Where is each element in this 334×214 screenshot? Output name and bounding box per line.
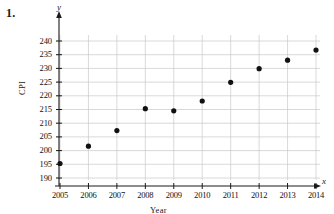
y-tick-label: 220 — [28, 90, 52, 100]
data-point — [257, 66, 262, 71]
axis-lines — [55, 11, 321, 189]
y-tick-label: 200 — [28, 145, 52, 155]
data-point — [171, 108, 176, 113]
data-point — [86, 144, 91, 149]
x-tick-label: 2005 — [45, 190, 75, 200]
data-point — [114, 128, 119, 133]
data-point — [57, 161, 62, 166]
data-points — [57, 47, 318, 166]
y-tick-label: 215 — [28, 104, 52, 114]
data-point — [285, 58, 290, 63]
y-tick-label: 230 — [28, 63, 52, 73]
y-axis-arrowhead — [56, 11, 62, 18]
figure-container: 1. y x CPI Year 190195200205210215220225… — [0, 0, 334, 214]
x-tick-label: 2010 — [187, 190, 217, 200]
x-tick-label: 2011 — [216, 190, 246, 200]
x-axis-arrowhead — [314, 183, 321, 189]
y-tick-label: 240 — [28, 36, 52, 46]
y-tick-label: 235 — [28, 49, 52, 59]
x-tick-label: 2007 — [102, 190, 132, 200]
y-tick-label: 205 — [28, 131, 52, 141]
data-point — [143, 106, 148, 111]
x-tick-label: 2009 — [159, 190, 189, 200]
x-tick-label: 2012 — [244, 190, 274, 200]
grid-lines — [56, 35, 320, 180]
y-tick-label: 195 — [28, 159, 52, 169]
data-point — [200, 98, 205, 103]
x-tick-label: 2013 — [273, 190, 303, 200]
x-tick-label: 2008 — [130, 190, 160, 200]
x-tick-label: 2014 — [301, 190, 331, 200]
tick-marks — [56, 41, 316, 189]
y-tick-label: 225 — [28, 77, 52, 87]
x-tick-label: 2006 — [73, 190, 103, 200]
y-tick-label: 210 — [28, 118, 52, 128]
data-point — [228, 80, 233, 85]
data-point — [313, 47, 318, 52]
y-tick-label: 190 — [28, 173, 52, 183]
